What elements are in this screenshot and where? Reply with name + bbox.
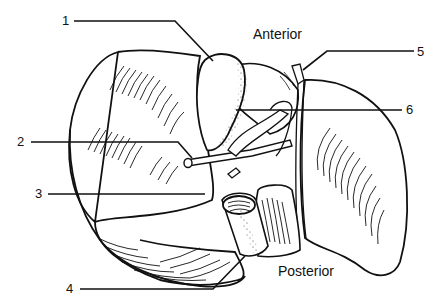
anterior-label: Anterior xyxy=(253,27,302,41)
gallbladder xyxy=(197,54,245,150)
callout-4: 4 xyxy=(66,282,73,295)
left-lobe xyxy=(300,80,407,275)
liver-illustration xyxy=(0,0,440,308)
callout-5: 5 xyxy=(417,45,424,58)
leader-line-5 xyxy=(303,51,414,70)
posterior-label: Posterior xyxy=(278,264,334,278)
callout-2: 2 xyxy=(17,135,24,148)
callout-6: 6 xyxy=(406,103,413,116)
callout-1: 1 xyxy=(62,14,69,27)
callout-3: 3 xyxy=(35,187,42,200)
